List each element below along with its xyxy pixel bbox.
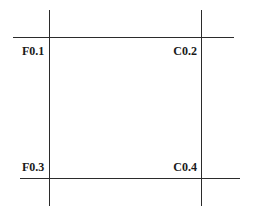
horizontal-line-top xyxy=(13,37,234,38)
label-top-left: F0.1 xyxy=(22,45,44,57)
vertical-line-right xyxy=(201,10,202,206)
label-top-right: C0.2 xyxy=(173,45,197,57)
horizontal-line-bottom xyxy=(20,178,240,179)
label-bottom-left: F0.3 xyxy=(22,161,44,173)
label-bottom-right: C0.4 xyxy=(173,161,197,173)
vertical-line-left xyxy=(49,10,50,206)
